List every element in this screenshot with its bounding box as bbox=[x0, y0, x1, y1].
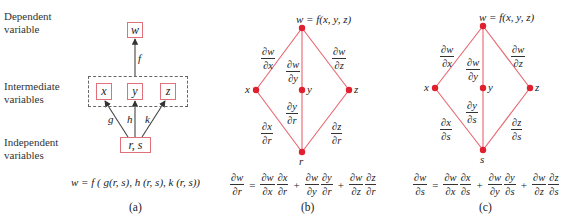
top-function-label: w = f(x, y, z) bbox=[479, 11, 534, 23]
node-label-z: z bbox=[354, 83, 358, 95]
partial-w-x: ∂w∂x bbox=[440, 44, 454, 69]
chain-rule-equation-r: ∂w∂r = ∂w∂x ∂x∂r + ∂w∂y ∂y∂r + ∂w∂z ∂z∂r bbox=[229, 172, 377, 197]
partial-y-s: ∂y∂s bbox=[466, 100, 478, 125]
composite-equation: w = f ( g(r, s), h (r, s), k (r, s)) bbox=[71, 176, 200, 188]
partial-w-y: ∂w∂y bbox=[286, 59, 300, 84]
partial-x-r: ∂x∂r bbox=[261, 121, 273, 146]
edge-label-g: g bbox=[108, 113, 114, 125]
box-x: x bbox=[96, 83, 112, 100]
caption-c: (c) bbox=[479, 201, 492, 213]
box-rs: r, s bbox=[120, 137, 151, 153]
partial-w-y: ∂w∂y bbox=[466, 57, 480, 82]
edge-label-f: f bbox=[138, 52, 141, 64]
partial-w-z: ∂w∂z bbox=[332, 46, 346, 71]
node-label-x: x bbox=[245, 83, 250, 95]
node-label-r: r bbox=[299, 155, 303, 167]
node-label-y: y bbox=[488, 81, 493, 93]
caption-b: (b) bbox=[301, 201, 314, 213]
partial-z-s: ∂z∂s bbox=[511, 117, 522, 142]
label-line: Intermediate bbox=[4, 80, 60, 93]
partial-w-z: ∂w∂z bbox=[511, 44, 525, 69]
independent-variables-label: Independent variables bbox=[4, 136, 58, 162]
partial-w-x: ∂w∂x bbox=[261, 46, 275, 71]
dependent-variable-label: Dependent variable bbox=[4, 10, 52, 36]
edge-label-k: k bbox=[145, 113, 150, 125]
intermediate-variables-label: Intermediate variables bbox=[4, 80, 60, 106]
node-label-y: y bbox=[307, 83, 312, 95]
partial-z-r: ∂z∂r bbox=[331, 121, 342, 146]
node-label-z: z bbox=[535, 81, 539, 93]
box-z: z bbox=[160, 83, 176, 100]
label-line: Dependent bbox=[4, 10, 52, 23]
node-label-s: s bbox=[480, 153, 484, 165]
label-line: variable bbox=[4, 23, 52, 36]
partial-y-r: ∂y∂r bbox=[286, 101, 298, 126]
label-line: variables bbox=[4, 93, 60, 106]
box-w: w bbox=[127, 22, 143, 38]
chain-rule-equation-s: ∂w∂s = ∂w∂x ∂x∂s + ∂w∂y ∂y∂s + ∂w∂z ∂z∂s bbox=[412, 172, 560, 197]
label-line: variables bbox=[4, 149, 58, 162]
box-y: y bbox=[127, 83, 143, 100]
partial-x-s: ∂x∂s bbox=[440, 117, 452, 142]
label-line: Independent bbox=[4, 136, 58, 149]
node-label-x: x bbox=[424, 81, 429, 93]
edge-label-h: h bbox=[127, 113, 133, 125]
top-function-label: w = f(x, y, z) bbox=[296, 13, 351, 25]
caption-a: (a) bbox=[129, 201, 142, 213]
